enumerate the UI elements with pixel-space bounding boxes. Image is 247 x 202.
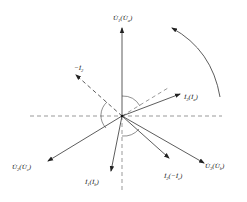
angle-arcs bbox=[101, 96, 140, 136]
origin-point bbox=[121, 115, 124, 118]
rotation-arrow-icon bbox=[172, 28, 220, 97]
label-i1: İ1(İb) bbox=[84, 178, 100, 187]
label-u3: U̇3(U̇b) bbox=[205, 162, 225, 171]
arc-lower bbox=[122, 129, 139, 136]
phasor-diagram: U̇1(U̇a) −İ2 İ3(İa) U̇2(U̇c) İ1(İb) İ2(−… bbox=[0, 0, 247, 202]
vector-i1 bbox=[111, 116, 122, 171]
label-u1: U̇1(U̇a) bbox=[113, 14, 133, 23]
arc-left bbox=[101, 102, 107, 128]
label-u2: U̇2(U̇c) bbox=[12, 163, 32, 172]
reference-axes bbox=[30, 88, 222, 192]
label-i2: İ2(−İc) bbox=[163, 172, 183, 181]
label-i3: İ3(İa) bbox=[183, 93, 199, 102]
vector-neg-i2 bbox=[76, 75, 122, 116]
vectors bbox=[48, 28, 204, 171]
vector-u2 bbox=[48, 116, 122, 161]
diagonal-reference-line bbox=[122, 88, 168, 116]
arc-upper-right bbox=[122, 96, 140, 106]
vector-u3 bbox=[122, 116, 204, 163]
label-neg-i2: −İ2 bbox=[74, 64, 84, 73]
vector-i2 bbox=[122, 116, 169, 158]
